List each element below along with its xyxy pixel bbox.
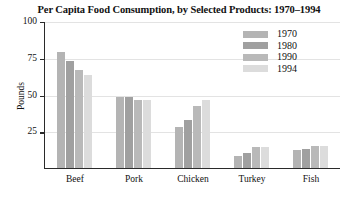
legend-label: 1980: [277, 41, 297, 51]
x-tick-label: Pork: [125, 174, 143, 184]
legend-swatch: [243, 65, 268, 72]
y-tick-label: 50: [28, 91, 38, 101]
bar: [320, 146, 328, 168]
bar: [193, 106, 201, 168]
bar: [75, 70, 83, 168]
bar: [311, 146, 319, 168]
bar: [234, 156, 242, 168]
bar-group: [175, 22, 211, 168]
bar: [143, 100, 151, 168]
legend-swatch: [243, 31, 268, 38]
legend-item: 1990: [243, 52, 297, 63]
bar: [202, 100, 210, 168]
bar: [66, 61, 74, 168]
y-tick-label: 75: [28, 54, 38, 64]
legend-item: 1980: [243, 41, 297, 52]
bar: [261, 147, 269, 168]
legend-item: 1970: [243, 29, 297, 40]
y-axis-title-label: Pounds: [16, 82, 26, 110]
legend-label: 1990: [277, 52, 297, 62]
y-tick-label: 25: [28, 128, 38, 138]
bar: [125, 97, 133, 168]
bar: [293, 150, 301, 168]
legend-item: 1994: [243, 64, 297, 75]
x-tick-label: Fish: [303, 174, 319, 184]
legend-label: 1994: [277, 64, 297, 74]
legend-label: 1970: [277, 29, 297, 39]
chart-figure: Per Capita Food Consumption, by Selected…: [0, 0, 358, 198]
bar: [184, 120, 192, 169]
bar: [302, 149, 310, 168]
x-tick-label: Turkey: [238, 174, 265, 184]
bar: [252, 147, 260, 168]
bar-group: [293, 22, 329, 168]
bar: [243, 153, 251, 168]
bar: [134, 100, 142, 168]
bar: [116, 97, 124, 168]
bar-group: [57, 22, 93, 168]
legend-swatch: [243, 42, 268, 49]
bar-group: [116, 22, 152, 168]
x-tick-label: Beef: [66, 174, 84, 184]
bar: [57, 52, 65, 168]
bar: [84, 75, 92, 168]
bar: [175, 127, 183, 168]
chart-legend: 1970198019901994: [243, 29, 297, 75]
x-tick-label: Chicken: [177, 174, 209, 184]
chart-title: Per Capita Food Consumption, by Selected…: [0, 4, 358, 15]
y-tick-label: 100: [23, 17, 37, 27]
legend-swatch: [243, 54, 268, 61]
